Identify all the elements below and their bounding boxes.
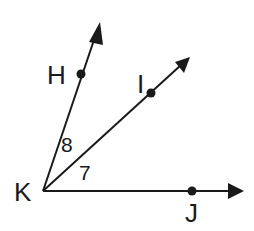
point-j: [188, 187, 197, 196]
arrowhead-icon: [228, 183, 244, 199]
arrowhead-icon: [175, 57, 190, 73]
ray-kj: [43, 183, 244, 199]
label-h: H: [47, 60, 66, 90]
label-k: K: [14, 177, 32, 207]
angle-diagram: K H I J 8 7: [0, 0, 254, 231]
point-h: [77, 70, 86, 79]
label-j: J: [185, 198, 198, 228]
angle-8-label: 8: [61, 133, 73, 156]
ray-kh: [43, 22, 103, 191]
point-i: [147, 89, 156, 98]
angle-7-label: 7: [79, 161, 91, 184]
label-i: I: [137, 69, 144, 99]
arrowhead-icon: [89, 22, 103, 45]
